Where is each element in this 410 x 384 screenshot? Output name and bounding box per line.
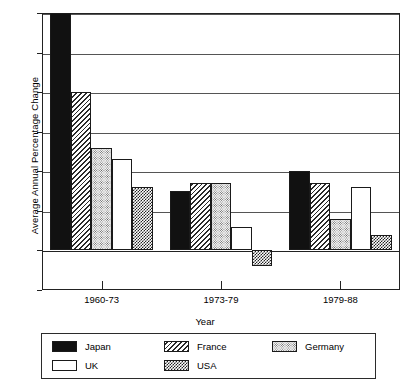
y-tick-mark [37,132,42,133]
y-tick-mark [37,13,42,14]
zero-line [43,251,399,252]
legend-label: USA [197,360,217,371]
y-tick-mark [37,211,42,212]
bar-germany-1973-79 [211,183,232,250]
y-tick-mark [37,92,42,93]
bar-uk-1960-73 [112,159,133,250]
bar-usa-1973-79 [252,250,273,266]
legend-label: Japan [85,341,111,352]
gridline [43,93,399,94]
gridline [43,54,399,55]
legend-label: France [197,341,227,352]
legend-item-japan[interactable]: Japan [52,341,111,352]
bar-uk-1973-79 [231,227,252,251]
bar-france-1979-88 [310,183,331,250]
legend-item-germany[interactable]: Germany [272,341,344,352]
bar-usa-1960-73 [132,187,153,250]
legend-swatch-japan [52,341,77,352]
gridline [43,14,399,15]
bar-france-1960-73 [71,92,92,250]
y-tick-mark [37,290,42,291]
legend-swatch-france [164,341,189,352]
legend-label: Germany [305,341,344,352]
x-tick-label: 1960-73 [62,294,142,305]
bar-chart-figure: Average Annual Percentage Change 6.05.04… [0,0,410,384]
bar-germany-1979-88 [330,219,351,251]
bar-japan-1979-88 [289,171,310,250]
legend: JapanFranceGermanyUKUSA [41,333,376,379]
x-tick-mark [102,281,103,290]
x-tick-mark [340,281,341,290]
x-axis-title: Year [0,316,410,327]
bar-uk-1979-88 [351,187,372,250]
bar-germany-1960-73 [91,148,112,251]
y-axis-title: Average Annual Percentage Change [29,26,40,286]
legend-item-usa[interactable]: USA [164,360,217,371]
legend-swatch-usa [164,360,189,371]
legend-item-france[interactable]: France [164,341,227,352]
x-tick-label: 1979-88 [300,294,380,305]
bar-japan-1960-73 [50,13,71,250]
legend-swatch-uk [52,360,77,371]
x-tick-mark [221,281,222,290]
gridline [43,133,399,134]
legend-item-uk[interactable]: UK [52,360,98,371]
legend-swatch-germany [272,341,297,352]
y-tick-mark [37,250,42,251]
bar-japan-1973-79 [170,191,191,250]
bar-france-1973-79 [190,183,211,250]
x-tick-label: 1973-79 [181,294,261,305]
y-tick-mark [37,53,42,54]
y-tick-mark [37,171,42,172]
legend-label: UK [85,360,98,371]
bar-usa-1979-88 [371,235,392,251]
